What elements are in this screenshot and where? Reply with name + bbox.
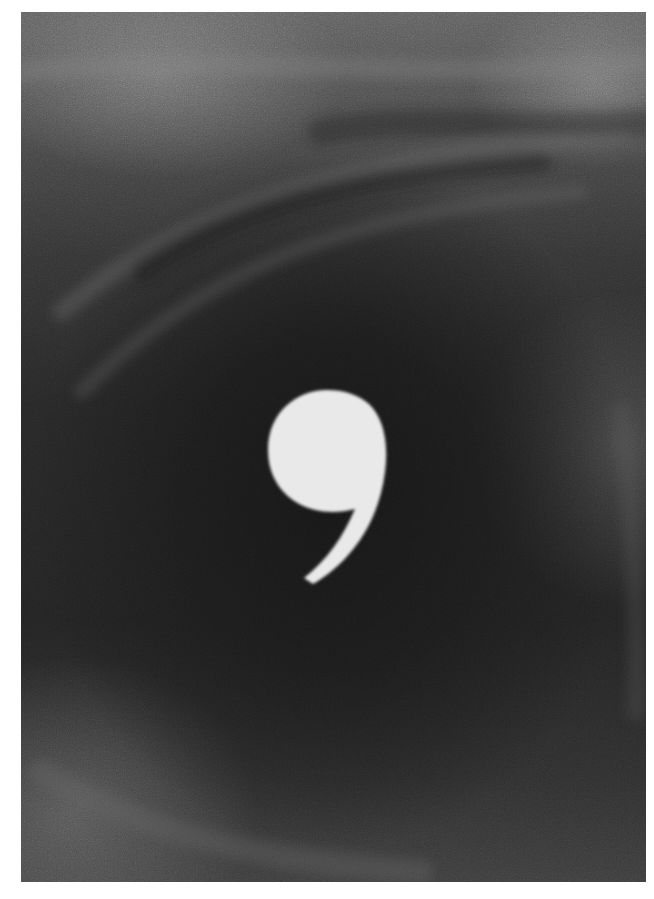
comma-glyph (21, 12, 646, 882)
comma-shape (268, 390, 386, 584)
caption (0, 884, 654, 896)
charcoal-artwork (21, 12, 646, 882)
